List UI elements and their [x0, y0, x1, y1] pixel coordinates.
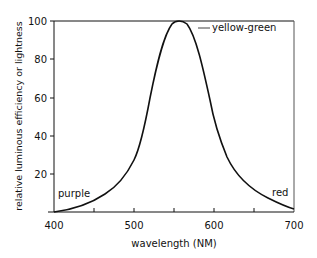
svg-text:60: 60	[34, 93, 47, 104]
y-ticks	[50, 21, 54, 174]
annotation-red: red	[272, 187, 288, 198]
svg-text:700: 700	[284, 220, 303, 231]
svg-text:40: 40	[34, 131, 47, 142]
x-tick-labels: 400 500 600 700	[44, 220, 303, 231]
x-ticks	[94, 208, 254, 212]
svg-text:600: 600	[204, 220, 223, 231]
svg-text:80: 80	[34, 54, 47, 65]
y-axis-label: relative luminous efficiency or lightnes…	[13, 21, 24, 210]
annotation-yellow-green: yellow-green	[212, 22, 276, 33]
svg-text:100: 100	[28, 16, 47, 27]
luminous-efficiency-curve	[54, 21, 294, 212]
x-axis-label: wavelength (NM)	[131, 238, 216, 249]
annotation-purple: purple	[58, 188, 90, 199]
y-tick-labels: 100 80 60 40 20	[28, 16, 47, 180]
svg-text:500: 500	[124, 220, 143, 231]
chart: 100 80 60 40 20 400 500 600 700 waveleng…	[0, 0, 317, 258]
svg-text:20: 20	[34, 169, 47, 180]
svg-text:400: 400	[44, 220, 63, 231]
